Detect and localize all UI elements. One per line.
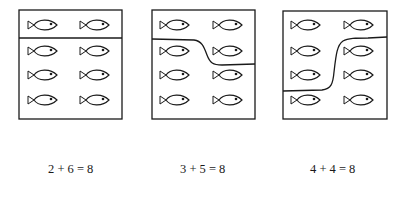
fish-icon — [28, 95, 57, 105]
fish-icon — [344, 95, 373, 105]
fish-icon — [160, 20, 189, 30]
fish-icon — [213, 46, 242, 56]
fish-icon — [80, 95, 109, 105]
fish-icon — [344, 70, 373, 80]
fish-icon — [80, 70, 109, 80]
fish-icon — [80, 20, 109, 30]
fish-icon — [80, 46, 109, 56]
fish-icon — [344, 46, 373, 56]
panel-1-equations: 2 + 6 = 8 6 + 2 = 8 8 - 6 = 2 8 - 2 = 6 — [48, 131, 93, 198]
fish-icon — [28, 46, 57, 56]
panel-3-equations: 4 + 4 = 8 8 - 4 = 4 — [310, 131, 355, 198]
panel-2 — [152, 10, 255, 119]
panel-3 — [283, 11, 387, 119]
fish-icon — [213, 20, 242, 30]
panel-3-divider — [283, 37, 387, 91]
fish-icon — [160, 46, 189, 56]
equation: 2 + 6 = 8 — [48, 162, 93, 178]
fish-icon — [160, 70, 189, 80]
fish-icon — [291, 70, 320, 80]
fish-icon — [160, 95, 189, 105]
equation: 4 + 4 = 8 — [310, 162, 355, 178]
fish-icon — [291, 20, 320, 30]
fish-icon — [344, 20, 373, 30]
panel-1 — [19, 10, 122, 119]
fish-icon — [28, 70, 57, 80]
fish-icon — [213, 70, 242, 80]
fish-icon — [213, 95, 242, 105]
fish-icon — [291, 95, 320, 105]
equation: 3 + 5 = 8 — [180, 162, 225, 178]
fish-icon — [28, 20, 57, 30]
panel-2-equations: 3 + 5 = 8 5 + 3 = 8 8 - 3 = 5 8 - 5 = 3 — [180, 131, 225, 198]
fish-icon — [291, 46, 320, 56]
